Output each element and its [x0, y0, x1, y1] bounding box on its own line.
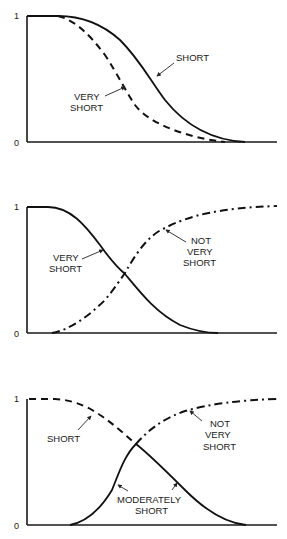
label-very-short-line2: SHORT	[49, 263, 82, 274]
label-not-very-short-line2: VERY	[205, 429, 231, 440]
panel-1: 1 0 SHORT VERY SHORT	[14, 11, 277, 148]
curve-short	[29, 399, 136, 444]
y-tick-1: 1	[14, 394, 19, 404]
curve-short	[27, 16, 245, 142]
arrow-not-very-short	[166, 230, 186, 242]
arrow-moderately-short-right	[172, 483, 177, 490]
label-not-very-short-line3: SHORT	[183, 257, 216, 268]
arrow-short	[157, 63, 174, 76]
label-very-short-line2: SHORT	[70, 102, 103, 113]
label-moderately-short-line1: MODERATELY	[117, 494, 182, 505]
curve-very-short	[58, 16, 225, 142]
arrow-not-very-short	[190, 411, 202, 421]
label-short: SHORT	[176, 52, 209, 63]
curve-not-very-short	[52, 206, 277, 333]
arrow-very-short	[105, 87, 125, 96]
label-short: SHORT	[47, 433, 80, 444]
y-tick-0: 0	[14, 138, 19, 148]
y-tick-0: 0	[14, 521, 19, 531]
label-not-very-short-line2: VERY	[187, 246, 213, 257]
fuzzy-membership-diagram: 1 0 SHORT VERY SHORT 1 0 VERY SHORT NOT …	[0, 0, 287, 539]
y-tick-1: 1	[14, 202, 19, 212]
y-tick-1: 1	[14, 11, 19, 21]
arrow-very-short	[82, 250, 103, 259]
label-moderately-short-line2: SHORT	[135, 505, 168, 516]
label-not-very-short-line3: SHORT	[203, 441, 236, 452]
panel-2: 1 0 VERY SHORT NOT VERY SHORT	[14, 202, 277, 339]
arrow-short	[78, 416, 91, 430]
arrow-moderately-short-left	[118, 485, 128, 491]
y-tick-0: 0	[14, 329, 19, 339]
label-not-very-short-line1: NOT	[191, 235, 211, 246]
label-very-short-line1: VERY	[53, 252, 79, 263]
panel-3: 1 0 SHORT NOT VERY SHORT MODERATELY SHOR…	[14, 394, 277, 531]
label-very-short-line1: VERY	[74, 91, 100, 102]
axes	[27, 16, 277, 142]
label-not-very-short-line1: NOT	[210, 418, 230, 429]
